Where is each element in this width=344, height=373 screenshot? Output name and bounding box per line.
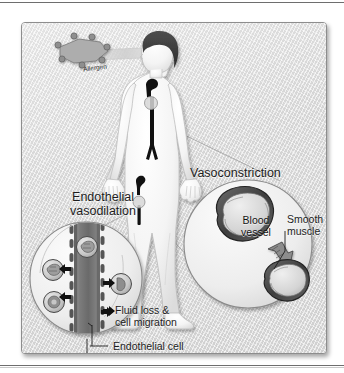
constricted-vessel-lumen [269,264,306,296]
label-blood-vessel-inset: Blood vessel [233,215,279,239]
migrating-cell-top [77,237,98,258]
anaphylaxis-diagram [22,23,326,353]
bottom-divider-rule [0,365,344,366]
right-hand [180,179,202,202]
constricted-vessel [264,260,309,302]
label-fluid-loss-cell-migration: Fluid loss & cell migration [115,305,177,329]
vasoconstriction-inset [184,180,312,308]
leader-blood-vessel [87,339,90,353]
migrating-cell-left-lower [44,292,65,313]
label-endothelial-cell: Endothelial cell [113,341,184,353]
label-endothelial-vasodilation: Endothelial vasodilation [55,190,151,218]
figure-panel: Vasoconstriction Endothelial vasodilatio… [21,22,327,354]
bottom-divider-rule-secondary [0,367,344,368]
torso-vessel-marker [145,97,158,110]
label-vasoconstriction: Vasoconstriction [190,166,281,180]
top-divider-rule [0,2,344,3]
figure-root: Vasoconstriction Endothelial vasodilatio… [0,0,344,373]
label-smooth-muscle: Smooth muscle [287,214,327,238]
